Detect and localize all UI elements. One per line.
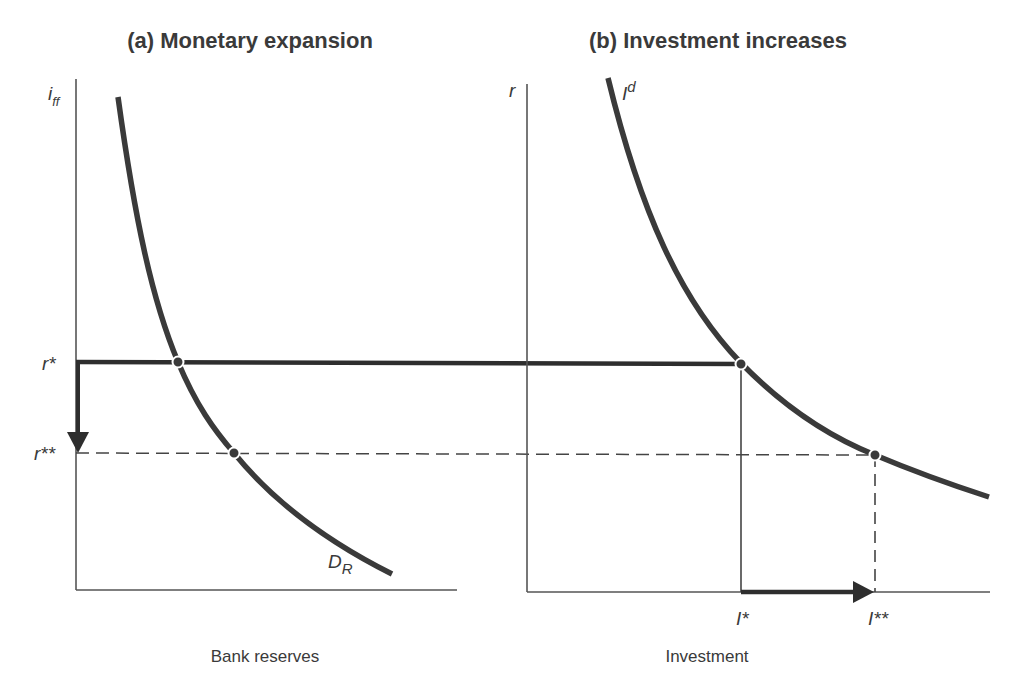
equilibrium-point-i-star-star [870, 450, 881, 461]
panel-a-x-label: Bank reserves [211, 647, 320, 666]
panel-a-y-label: iff [48, 83, 61, 109]
arrow-right-icon [853, 581, 874, 603]
panel-a: (a) Monetary expansion iff r* r** DR Ban… [34, 28, 875, 666]
panel-b-x-label: Investment [665, 647, 748, 666]
i-star-label: I* [736, 608, 749, 629]
demand-reserves-curve [118, 97, 392, 574]
equilibrium-point-r-star [173, 357, 184, 368]
i-star-star-label: I** [868, 608, 889, 629]
arrow-down-icon [67, 432, 89, 453]
demand-reserves-label: DR [328, 551, 353, 577]
panel-b-y-label: r [509, 80, 516, 101]
diagram-canvas: (a) Monetary expansion iff r* r** DR Ban… [0, 0, 1014, 680]
r-star-label: r* [42, 353, 56, 374]
investment-demand-curve [608, 78, 989, 497]
r-star-star-dashed-line [76, 453, 875, 455]
panel-b-title: (b) Investment increases [589, 28, 847, 53]
investment-demand-label: Id [622, 78, 636, 104]
equilibrium-point-i-star [736, 359, 747, 370]
panel-b: (b) Investment increases r Id I* I** Inv… [509, 28, 990, 666]
panel-a-title: (a) Monetary expansion [127, 28, 373, 53]
r-star-star-label: r** [34, 443, 56, 464]
equilibrium-point-r-star-star [229, 448, 240, 459]
